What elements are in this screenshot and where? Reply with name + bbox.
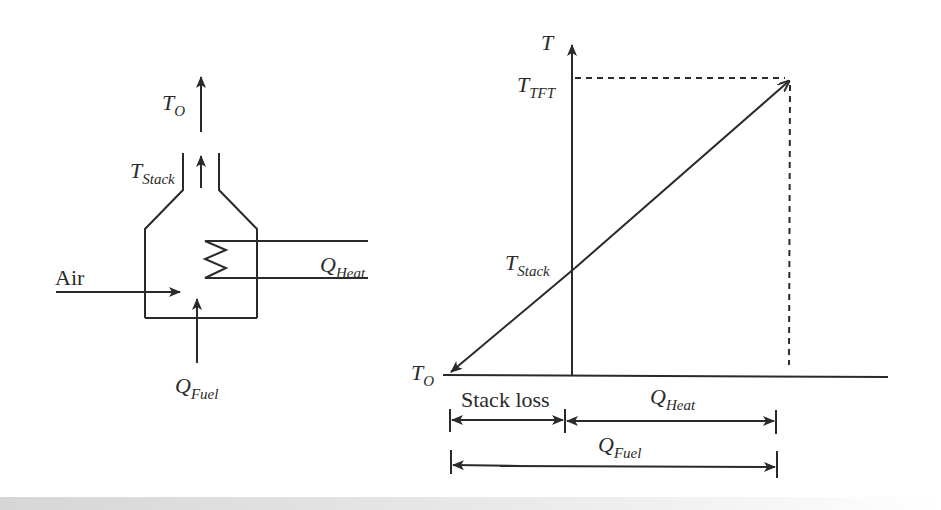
- x-axis: [443, 375, 888, 377]
- furnace-schematic: TO TStack QHeat Air QFuel: [55, 77, 368, 402]
- tstack-label: TStack: [505, 250, 550, 279]
- qfuel-dashed-guide: [789, 85, 790, 365]
- flue-gas-cooling-line: [575, 81, 789, 268]
- heat-output-label: QHeat: [320, 252, 366, 281]
- to-label: TO: [411, 360, 434, 389]
- ttft-label: TTFT: [517, 72, 557, 101]
- furnace-heat-diagram: TO TStack QHeat Air QFuel T: [0, 0, 941, 510]
- qheat-label: QHeat: [650, 384, 696, 413]
- outlet-temp-label: TO: [162, 90, 185, 119]
- stack-temp-label: TStack: [130, 158, 175, 187]
- air-label: Air: [55, 265, 85, 290]
- stack-loss-label: Stack loss: [461, 387, 550, 412]
- stack-right-wall: [219, 153, 257, 318]
- qfuel-dim-arrow-back-icon: [453, 465, 520, 466]
- stack-loss-line: [451, 268, 575, 372]
- scan-edge-band: [0, 497, 941, 510]
- qfuel-label: QFuel: [598, 432, 641, 461]
- fuel-input-label: QFuel: [175, 373, 218, 402]
- qfuel-dim-arrow-icon: [500, 466, 775, 467]
- y-axis-label: T: [541, 30, 555, 55]
- temperature-heat-chart: T TTFT TStack TO Stack loss QHeat: [411, 30, 888, 478]
